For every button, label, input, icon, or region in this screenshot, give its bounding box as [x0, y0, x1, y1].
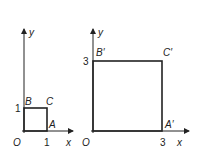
left-tick-y: 1	[15, 103, 21, 114]
square-a-prime-b-prime-c-prime	[93, 61, 162, 131]
right-tick-x: 3	[160, 137, 166, 148]
vertex-a-prime-label: A′	[164, 119, 175, 130]
right-origin-label: O	[82, 137, 90, 148]
right-x-axis-label: x	[176, 137, 183, 148]
vertex-a-label: A	[48, 119, 56, 130]
right-graph: y x O 3 3 B′ C′ A′	[82, 27, 189, 148]
left-graph: y x O 1 1 B C A	[13, 27, 73, 148]
dilation-diagram: y x O 1 1 B C A y x O 3 3 B′ C′ A′	[0, 0, 199, 154]
left-origin-label: O	[13, 137, 21, 148]
vertex-c-label: C	[46, 96, 54, 107]
square-abc	[24, 108, 47, 131]
vertex-b-prime-label: B′	[96, 47, 106, 58]
left-x-axis-label: x	[65, 137, 72, 148]
vertex-b-label: B	[25, 96, 32, 107]
vertex-c-prime-label: C′	[163, 47, 173, 58]
left-tick-x: 1	[44, 137, 50, 148]
left-y-axis-label: y	[28, 27, 35, 38]
right-y-axis-label: y	[97, 27, 104, 38]
right-tick-y: 3	[83, 56, 89, 67]
